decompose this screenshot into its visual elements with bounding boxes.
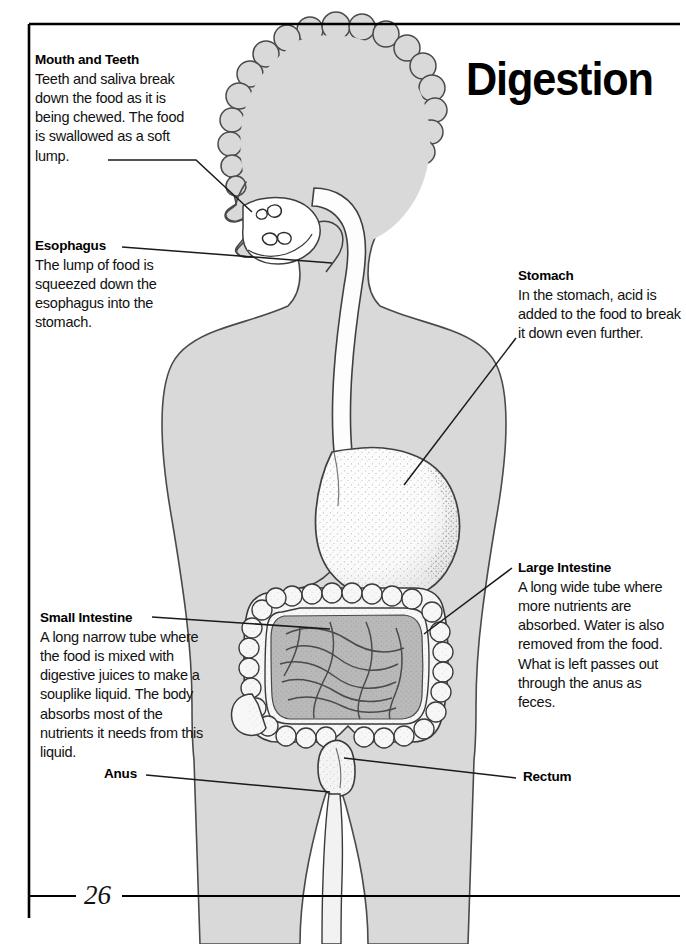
callout-heading-mouth-and-teeth: Mouth and Teeth xyxy=(35,52,185,68)
callout-heading-large-intestine: Large Intestine xyxy=(518,560,678,576)
callout-heading-esophagus: Esophagus xyxy=(35,238,175,254)
leader-line-anus xyxy=(146,775,330,792)
callout-stomach: Stomach In the stomach, acid is added to… xyxy=(518,268,686,343)
label-rectum: Rectum xyxy=(523,769,571,784)
label-anus: Anus xyxy=(104,766,137,781)
page-number: 26 xyxy=(84,880,111,911)
callout-small-intestine: Small Intestine A long narrow tube where… xyxy=(40,610,208,762)
callout-body-small-intestine: A long narrow tube where the food is mix… xyxy=(40,628,208,763)
callout-body-stomach: In the stomach, acid is added to the foo… xyxy=(518,286,686,344)
leader-line-large-intestine xyxy=(424,568,512,634)
leader-line-mouth-and-teeth xyxy=(108,160,252,212)
leader-line-stomach xyxy=(404,338,516,485)
callout-large-intestine: Large Intestine A long wide tube where m… xyxy=(518,560,678,712)
callout-body-mouth-and-teeth: Teeth and saliva break down the food as … xyxy=(35,70,185,166)
callout-mouth-and-teeth: Mouth and Teeth Teeth and saliva break d… xyxy=(35,52,185,166)
callout-heading-stomach: Stomach xyxy=(518,268,686,284)
callout-heading-small-intestine: Small Intestine xyxy=(40,610,208,626)
callout-esophagus: Esophagus The lump of food is squeezed d… xyxy=(35,238,175,333)
callout-body-large-intestine: A long wide tube where more nutrients ar… xyxy=(518,578,678,713)
leader-line-rectum xyxy=(344,758,516,778)
callout-body-esophagus: The lump of food is squeezed down the es… xyxy=(35,256,175,333)
page-title: Digestion xyxy=(466,52,653,106)
